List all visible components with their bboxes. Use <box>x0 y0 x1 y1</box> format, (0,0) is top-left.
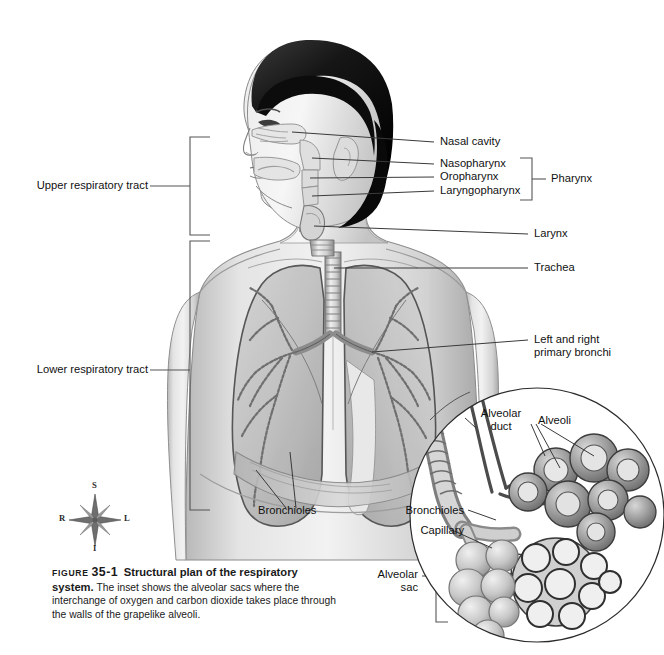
respiratory-system-figure: Upper respiratory tract Lower respirator… <box>0 0 664 655</box>
label-laryngopharynx: Laryngopharynx <box>440 184 520 197</box>
label-nasopharynx: Nasopharynx <box>440 157 506 170</box>
label-upper-respiratory-tract: Upper respiratory tract <box>20 179 148 192</box>
compass-rose: S I R L <box>62 487 128 553</box>
compass-right: R <box>59 513 65 523</box>
compass-superior: S <box>92 480 97 490</box>
label-alveolar-duct: Alveolar duct <box>470 407 532 433</box>
label-alveoli: Alveoli <box>538 414 571 427</box>
label-trachea: Trachea <box>534 261 575 274</box>
label-bronchioles-main: Bronchioles <box>258 504 316 517</box>
figure-artwork <box>0 0 664 655</box>
figure-caption: FIGURE 35-1 Structural plan of the respi… <box>52 566 352 621</box>
figure-word: FIGURE <box>52 568 89 578</box>
label-lower-respiratory-tract: Lower respiratory tract <box>20 363 148 376</box>
compass-inferior: I <box>93 543 96 553</box>
label-capillary: Capillary <box>386 524 464 537</box>
inset-magnification <box>410 388 664 652</box>
label-larynx: Larynx <box>534 227 568 240</box>
figure-number: 35-1 <box>92 565 118 579</box>
compass-left: L <box>124 513 130 523</box>
label-pharynx: Pharynx <box>551 172 592 185</box>
label-bronchioles-inset: Bronchioles <box>386 504 464 517</box>
label-primary-bronchi: Left and right primary bronchi <box>534 333 611 359</box>
label-nasal-cavity: Nasal cavity <box>440 135 500 148</box>
label-oropharynx: Oropharynx <box>440 170 498 183</box>
